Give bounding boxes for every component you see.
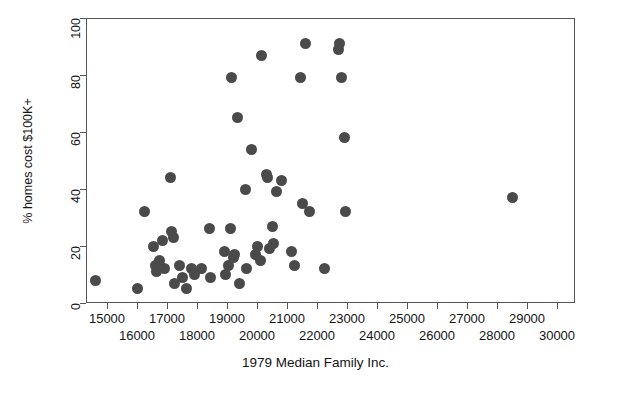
- x-axis-tick-label: 28000: [479, 328, 515, 343]
- y-axis-title: % homes cost $100K+: [18, 18, 38, 303]
- x-axis-tick: [497, 303, 498, 309]
- scatter-point: [168, 232, 179, 243]
- scatter-point: [295, 72, 306, 83]
- y-axis-tick-label-text: 80: [69, 75, 83, 89]
- x-axis-tick-label: 22000: [299, 328, 335, 343]
- x-axis-tick-label: 19000: [209, 311, 245, 326]
- x-axis-tick: [347, 303, 348, 309]
- scatter-point: [196, 263, 207, 274]
- scatter-point: [262, 172, 273, 183]
- x-axis-tick-label: 21000: [269, 311, 305, 326]
- x-axis-tick-label: 17000: [149, 311, 185, 326]
- x-axis-tick-label: 16000: [119, 328, 155, 343]
- scatter-point: [204, 223, 215, 234]
- scatter-point: [241, 263, 252, 274]
- y-axis-tick-label-text: 0: [69, 303, 83, 310]
- y-axis-tick-label-text: 60: [69, 132, 83, 146]
- scatter-point: [174, 260, 185, 271]
- scatter-point: [336, 72, 347, 83]
- x-axis-tick-label: 18000: [179, 328, 215, 343]
- scatter-point: [256, 50, 267, 61]
- x-axis-tick: [527, 303, 528, 309]
- scatter-point: [304, 206, 315, 217]
- x-axis-tick-label: 29000: [509, 311, 545, 326]
- scatter-point: [181, 283, 192, 294]
- scatter-point: [205, 272, 216, 283]
- scatter-point: [252, 241, 263, 252]
- x-axis-tick-label: 25000: [389, 311, 425, 326]
- y-axis-title-text: % homes cost $100K+: [21, 98, 35, 223]
- y-axis-tick-label-text: 40: [69, 189, 83, 203]
- scatter-point: [276, 175, 287, 186]
- x-axis-tick: [437, 303, 438, 309]
- x-axis-tick-label: 27000: [449, 311, 485, 326]
- scatter-point: [232, 112, 243, 123]
- x-axis-tick: [167, 303, 168, 309]
- scatter-point: [234, 278, 245, 289]
- scatter-point: [90, 275, 101, 286]
- x-axis-tick-label: 20000: [239, 328, 275, 343]
- x-axis-tick: [557, 303, 558, 309]
- scatter-point: [507, 192, 518, 203]
- scatter-point: [246, 144, 257, 155]
- x-axis-tick-label: 23000: [329, 311, 365, 326]
- x-axis-tick: [287, 303, 288, 309]
- scatter-point: [229, 249, 240, 260]
- x-axis-tick-label: 24000: [359, 328, 395, 343]
- x-axis-title: 1979 Median Family Inc.: [0, 355, 631, 370]
- x-axis-tick-label: 26000: [419, 328, 455, 343]
- scatter-point: [132, 283, 143, 294]
- scatter-point: [267, 221, 278, 232]
- x-axis-tick: [377, 303, 378, 309]
- x-axis-tick: [137, 303, 138, 309]
- scatter-point: [286, 246, 297, 257]
- y-axis-tick-label-text: 100: [69, 18, 83, 39]
- x-axis-tick: [317, 303, 318, 309]
- scatter-point: [289, 260, 300, 271]
- data-points-layer: [86, 18, 575, 303]
- scatter-point: [177, 272, 188, 283]
- x-axis-tick: [227, 303, 228, 309]
- scatter-point: [255, 255, 266, 266]
- x-axis-tick: [257, 303, 258, 309]
- scatter-point: [319, 263, 330, 274]
- x-axis-tick-label: 15000: [89, 311, 125, 326]
- scatter-point: [339, 132, 350, 143]
- scatter-point: [225, 223, 236, 234]
- scatter-point: [165, 172, 176, 183]
- x-axis-tick-label: 30000: [539, 328, 575, 343]
- scatter-point: [268, 238, 279, 249]
- scatter-point: [240, 184, 251, 195]
- scatter-point: [226, 72, 237, 83]
- x-axis-tick: [407, 303, 408, 309]
- scatter-point: [157, 235, 168, 246]
- scatter-point: [139, 206, 150, 217]
- scatter-point: [159, 263, 170, 274]
- scatter-point: [271, 186, 282, 197]
- scatter-plot-figure: % homes cost $100K+ 020406080100 1500016…: [0, 0, 631, 401]
- scatter-point: [300, 38, 311, 49]
- x-axis-tick: [197, 303, 198, 309]
- x-axis-tick: [467, 303, 468, 309]
- x-axis-tick: [107, 303, 108, 309]
- scatter-point: [340, 206, 351, 217]
- y-axis-tick-label-text: 20: [69, 246, 83, 260]
